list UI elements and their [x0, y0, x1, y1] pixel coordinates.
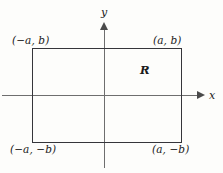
x-axis-arrowhead-icon: [197, 91, 205, 99]
corner-label-bottom-left: (−a, −b): [10, 143, 56, 155]
y-axis-arrowhead-icon: [100, 22, 108, 30]
region-rectangle: [32, 48, 182, 143]
x-axis-label: x: [209, 89, 215, 102]
corner-label-top-right: (a, b): [153, 34, 181, 46]
corner-label-top-left: (−a, b): [12, 34, 49, 46]
y-axis-label: y: [101, 6, 107, 19]
coordinate-plane-figure: y x (−a, b) (a, b) (−a, −b) (a, −b) R: [0, 0, 223, 173]
region-label: R: [140, 63, 150, 77]
corner-label-bottom-right: (a, −b): [152, 143, 189, 155]
